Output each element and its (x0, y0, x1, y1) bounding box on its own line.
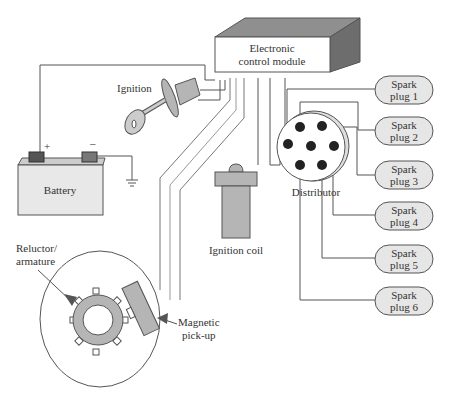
spark-plug-3: Spark plug 3 (375, 161, 433, 189)
spark-plug-5: Spark plug 5 (375, 245, 433, 273)
battery: + – Battery (18, 137, 105, 215)
ignition-diagram: Electronic control module Ignition + – B… (0, 0, 450, 400)
battery-plus: + (44, 140, 50, 152)
svg-text:Spark: Spark (391, 247, 417, 259)
ignition-label: Ignition (117, 82, 152, 94)
battery-label: Battery (44, 184, 77, 196)
ignition-switch: Ignition (117, 77, 200, 137)
svg-text:plug 3: plug 3 (390, 175, 418, 187)
ecm-label-line2: control module (239, 55, 306, 67)
battery-minus: – (89, 137, 96, 149)
ground-icon (126, 180, 138, 186)
reluctor-label-line2: armature (16, 255, 55, 267)
spark-plugs: Spark plug 1 Spark plug 2 Spark plug 3 S… (375, 76, 433, 315)
svg-text:plug 2: plug 2 (390, 131, 418, 143)
svg-text:Spark: Spark (391, 119, 417, 131)
svg-text:plug 4: plug 4 (390, 216, 418, 228)
ecm-label-line1: Electronic (249, 42, 294, 54)
svg-text:Spark: Spark (391, 204, 417, 216)
ignition-coil: Ignition coil (209, 164, 263, 256)
electronic-control-module: Electronic control module (215, 18, 360, 72)
svg-text:plug 1: plug 1 (390, 90, 418, 102)
pickup-label-line2: pick-up (182, 329, 216, 341)
distributor-label: Distributor (292, 186, 341, 198)
pickup-label-line1: Magnetic (178, 316, 220, 328)
svg-text:plug 5: plug 5 (390, 259, 418, 271)
svg-text:Spark: Spark (391, 163, 417, 175)
spark-plug-1: Spark plug 1 (375, 76, 433, 104)
ignition-coil-label: Ignition coil (209, 244, 263, 256)
svg-text:plug 6: plug 6 (390, 301, 418, 313)
reluctor-assembly: Reluctor/ armature Magnetic pick-up (16, 242, 220, 387)
svg-text:Spark: Spark (391, 289, 417, 301)
spark-plug-4: Spark plug 4 (375, 202, 433, 230)
spark-plug-6: Spark plug 6 (375, 287, 433, 315)
reluctor-label-line1: Reluctor/ (16, 242, 58, 254)
spark-plug-2: Spark plug 2 (375, 117, 433, 145)
distributor: Distributor (277, 111, 349, 198)
svg-text:Spark: Spark (391, 78, 417, 90)
